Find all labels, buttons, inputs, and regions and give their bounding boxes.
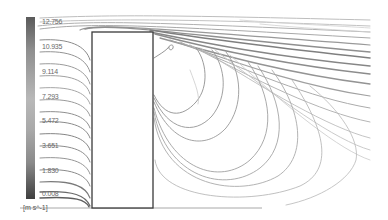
streamline-figure: 12.756 10.935 9.114 7.293 5.472 3.651 1.… bbox=[0, 0, 388, 220]
colorbar-tick-label: 1.830 bbox=[42, 167, 59, 174]
colorbar-tick-label: 10.935 bbox=[42, 43, 62, 50]
colorbar-tick-label: 12.756 bbox=[42, 18, 62, 25]
colorbar-tick-label: 5.472 bbox=[42, 117, 59, 124]
colorbar-tick-label: 0.008 bbox=[42, 190, 59, 197]
colorbar-tick-label: 9.114 bbox=[42, 68, 58, 75]
colorbar bbox=[26, 17, 35, 199]
colorbar-tick-label: 3.651 bbox=[42, 142, 59, 149]
building-obstacle bbox=[92, 32, 153, 208]
colorbar-unit-label: [m s^-1] bbox=[23, 204, 48, 211]
colorbar-tick-label: 7.293 bbox=[42, 93, 59, 100]
streamline-plot bbox=[0, 0, 388, 220]
